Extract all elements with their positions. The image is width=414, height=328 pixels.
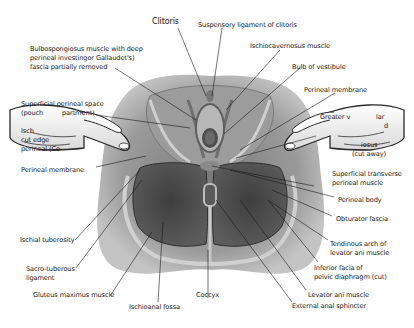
label-superficial-perineal-space-1: Superficial perineal space <box>21 100 104 108</box>
label-perineal-membrane-left: Perineal membrane <box>21 166 84 174</box>
label-ischio-cut-edge-3: perineal (Co <box>21 145 60 153</box>
label-suspensory-ligament: Suspensory ligament of clitoris <box>198 21 297 29</box>
label-inferior-fascia-2: pelvic diaphragm (cut) <box>314 273 387 281</box>
label-tendinous-arch-2: levator ani muscle <box>330 249 389 257</box>
label-superficial-perineal-space-2b: partment) <box>62 109 94 117</box>
label-bulb-of-vestibule: Bulb of vestibule <box>292 63 346 71</box>
label-external-anal-sphincter: External anal sphincter <box>292 302 366 310</box>
label-bulbospongiosus-3: fascia partially removed <box>30 63 107 71</box>
label-coccyx: Coccyx <box>196 291 219 299</box>
label-ischio-cut-edge-1: Isch <box>21 127 34 135</box>
perineum-diagram: Clitoris Suspensory ligament of clitoris… <box>0 0 414 328</box>
label-clitoris: Clitoris <box>152 18 179 26</box>
label-sacrotuberous-1: Sacro-tuberous <box>26 265 75 273</box>
label-ischio-cut-edge-2: cut edge <box>21 136 49 144</box>
label-inferior-fascia-1: Inferior facia of <box>314 264 363 272</box>
label-perineal-membrane-right: Perineal membrane <box>304 86 367 94</box>
label-superficial-transverse-1: Superficial transverse <box>332 170 402 178</box>
label-gluteus-maximus: Gluteus maximus muscle <box>33 291 114 299</box>
label-bulbospongiosus-cut-2: (cut away) <box>352 150 386 158</box>
label-obturator-fascia: Obturator fascia <box>336 215 388 223</box>
label-bulbospongiosus-2: perineal investingor Gallaudet's) <box>30 54 134 62</box>
label-ischioanal-fossa: Ischioanal fossa <box>129 303 180 311</box>
label-greater-vestibular-1b: lar <box>376 113 384 121</box>
label-tendinous-arch-1: Tendinous arch of <box>330 240 386 248</box>
label-greater-vestibular-2: d <box>384 122 388 130</box>
label-ischial-tuberosity: Ischial tuberosity <box>20 236 75 244</box>
label-bulbospongiosus-cut-1: iosus <box>361 141 377 149</box>
label-greater-vestibular-1a: Greater v <box>320 113 350 121</box>
label-bulbospongiosus-1: Bulbospongiosus muscle with deep <box>30 45 143 53</box>
label-sacrotuberous-2: ligament <box>26 274 54 282</box>
label-ischiocavernosus: Ischiocavernosus muscle <box>250 42 330 50</box>
label-superficial-transverse-2: perineal muscle <box>332 179 383 187</box>
label-levator-ani: Levator ani muscle <box>308 291 369 299</box>
anal-canal <box>204 184 216 206</box>
label-perineal-body: Perineal body <box>338 196 382 204</box>
label-superficial-perineal-space-2a: (pouch <box>21 109 43 117</box>
